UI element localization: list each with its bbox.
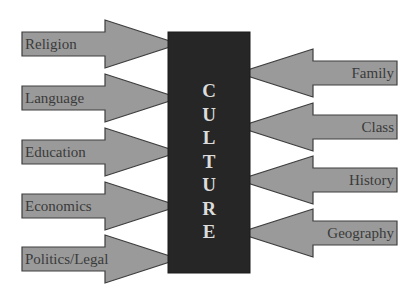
- factor-label: Politics/Legal: [25, 251, 108, 267]
- arrow-geography: Geography: [238, 209, 397, 257]
- culture-letter: T: [203, 151, 216, 172]
- culture-letter: U: [202, 174, 216, 195]
- factor-label: Language: [25, 90, 84, 106]
- arrow-education: Education: [22, 128, 179, 176]
- culture-letter: C: [202, 80, 216, 101]
- factor-label: Education: [25, 144, 86, 160]
- culture-influences-diagram: ReligionLanguageEducationEconomicsPoliti…: [0, 0, 419, 302]
- factor-label: Family: [351, 65, 394, 81]
- left-arrows-group: ReligionLanguageEducationEconomicsPoliti…: [22, 20, 179, 283]
- factor-label: Religion: [25, 36, 77, 52]
- culture-letter: U: [202, 104, 216, 125]
- culture-letter: R: [202, 198, 216, 219]
- right-arrows-group: FamilyClassHistoryGeography: [238, 49, 397, 257]
- arrow-religion: Religion: [22, 20, 179, 68]
- culture-label: CULTURE: [202, 80, 216, 242]
- factor-label: Geography: [327, 225, 394, 241]
- culture-letter: L: [203, 127, 216, 148]
- arrow-language: Language: [22, 74, 179, 122]
- arrow-family: Family: [238, 49, 397, 97]
- arrow-history: History: [238, 156, 397, 204]
- factor-label: Economics: [25, 198, 92, 214]
- culture-letter: E: [203, 221, 216, 242]
- arrow-economics: Economics: [22, 182, 179, 230]
- factor-label: Class: [361, 119, 394, 135]
- factor-label: History: [349, 172, 395, 188]
- arrow-politics-legal: Politics/Legal: [22, 235, 179, 283]
- arrow-class: Class: [238, 103, 397, 151]
